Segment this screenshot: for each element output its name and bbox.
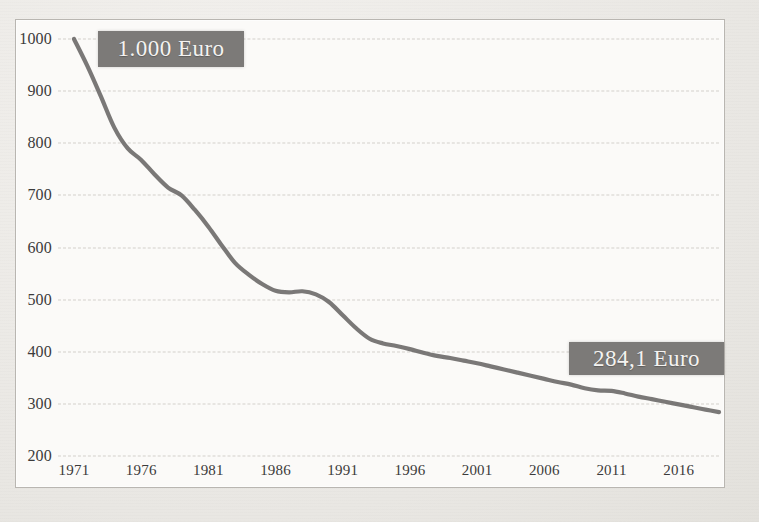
start-value-callout-label: 1.000 Euro [117, 36, 224, 62]
end-value-callout: 284,1 Euro [569, 342, 724, 375]
end-value-callout-label: 284,1 Euro [593, 346, 700, 372]
data-line-series [16, 20, 724, 487]
start-value-callout: 1.000 Euro [98, 31, 244, 67]
plot-area: 2003004005006007008009001000 19711976198… [16, 20, 724, 487]
chart-figure: 2003004005006007008009001000 19711976198… [15, 19, 725, 488]
